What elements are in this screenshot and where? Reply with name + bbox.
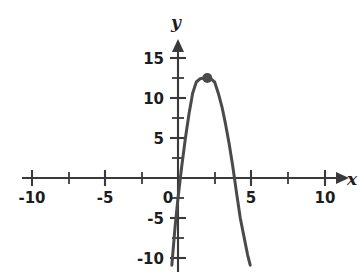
x-tick-label--5: -5 (97, 189, 114, 207)
graph-figure: -10 -5 0 5 10 15 10 5 -5 -10 x y (0, 0, 363, 280)
y-tick-label-15: 15 (143, 50, 164, 68)
y-tick-label-10: 10 (143, 90, 164, 108)
x-tick-label--10: -10 (18, 189, 45, 207)
x-tick-label-0: 0 (163, 189, 173, 207)
x-tick-label-10: 10 (315, 189, 336, 207)
parabola-plot: -10 -5 0 5 10 15 10 5 -5 -10 x y (0, 0, 363, 280)
y-axis-arrow-icon (172, 39, 184, 52)
vertex-point-marker (202, 73, 212, 83)
y-axis-label: y (170, 12, 182, 32)
x-axis-label: x (346, 169, 358, 189)
y-tick-label-5: 5 (154, 130, 164, 148)
y-tick-label--10: -10 (137, 250, 164, 268)
y-tick-label--5: -5 (147, 210, 164, 228)
x-tick-label-5: 5 (246, 189, 256, 207)
